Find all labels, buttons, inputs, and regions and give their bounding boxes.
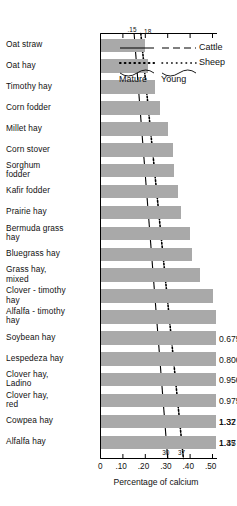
category-label: Clover - timothy hay xyxy=(6,286,98,304)
category-label: Sorghum fodder xyxy=(6,161,98,179)
legend-label-sheep: Sheep xyxy=(199,57,225,67)
table-row-bar xyxy=(101,185,178,199)
bar-value-label: 0.975 xyxy=(219,396,237,406)
category-label: Timothy hay xyxy=(6,82,98,91)
x-tick-label: .40 xyxy=(183,462,194,471)
table-row-bar xyxy=(101,331,217,345)
bar-value-label: 0.800 xyxy=(219,355,237,365)
table-row-bar xyxy=(101,289,213,303)
table-row-bar xyxy=(101,143,174,157)
table-row-bar xyxy=(101,206,182,220)
annotation-cattle-bottom: 30 xyxy=(162,449,169,456)
bar-value-label-extra: 1.47 xyxy=(219,438,236,448)
table-row-bar xyxy=(101,436,217,450)
table-row-bar xyxy=(101,352,217,366)
table-row-bar xyxy=(101,122,168,136)
x-tick-label: 0 xyxy=(98,462,103,471)
calcium-bar-chart: Oat strawOat hayTimothy hayCorn fodderMi… xyxy=(0,0,237,506)
bar-value-label: 0.675 xyxy=(219,334,237,344)
table-row-bar xyxy=(101,415,217,429)
table-row-bar xyxy=(101,248,193,262)
x-axis-title: Percentage of calcium xyxy=(113,477,198,487)
table-row-bar xyxy=(101,394,217,408)
category-label: Bermuda grass hay xyxy=(6,224,98,242)
annotation-sheep-top: .18 xyxy=(142,28,151,35)
table-row-bar xyxy=(101,310,217,324)
x-tick-label: .50 xyxy=(205,462,216,471)
x-tick-label: .30 xyxy=(160,462,171,471)
table-row-bar xyxy=(101,164,175,178)
category-label: Clover hay, red xyxy=(6,391,98,409)
table-row-bar xyxy=(101,268,201,282)
category-label: Grass hay, mixed xyxy=(6,265,98,283)
legend-label-mature: Mature xyxy=(119,74,147,84)
category-label: Lespedeza hay xyxy=(6,354,98,363)
category-label: Clover hay, Ladino xyxy=(6,370,98,388)
category-label: Millet hay xyxy=(6,124,98,133)
category-label: Soybean hay xyxy=(6,333,98,342)
bar-value-label-extra: 1.37 xyxy=(219,417,236,427)
category-label: Oat straw xyxy=(6,40,98,49)
annotation-sheep-bottom: 37 xyxy=(178,449,185,456)
category-label: Corn stover xyxy=(6,145,98,154)
category-label: Prairie hay xyxy=(6,207,98,216)
x-tick-label: .10 xyxy=(115,462,126,471)
category-label: Alfalfa hay xyxy=(6,437,98,446)
table-row-bar xyxy=(101,101,160,115)
annotation-cattle-top: .15 xyxy=(128,26,137,33)
legend-label-cattle: Cattle xyxy=(199,42,223,52)
table-row-bar xyxy=(101,227,191,241)
category-label: Oat hay xyxy=(6,61,98,70)
category-label: Bluegrass hay xyxy=(6,249,98,258)
x-tick-label: .20 xyxy=(138,462,149,471)
category-label: Corn fodder xyxy=(6,103,98,112)
category-label: Cowpea hay xyxy=(6,416,98,425)
category-label: Kafir fodder xyxy=(6,186,98,195)
category-label: Alfalfa - timothy hay xyxy=(6,307,98,325)
bar-value-label: 0.950 xyxy=(219,375,237,385)
legend-label-young: Young xyxy=(161,74,186,84)
table-row-bar xyxy=(101,373,217,387)
